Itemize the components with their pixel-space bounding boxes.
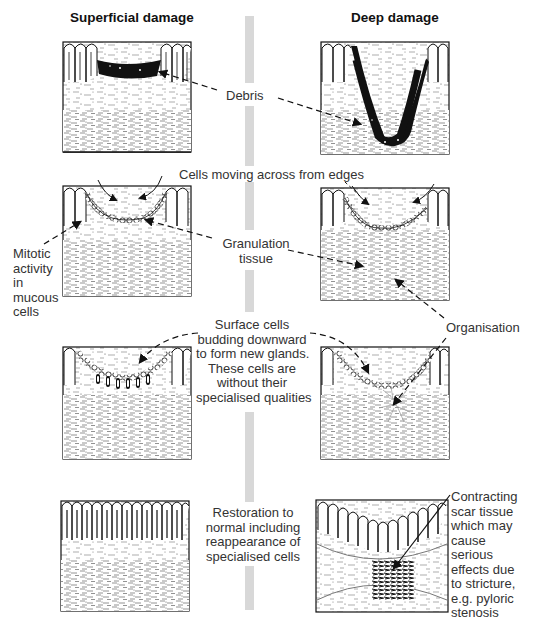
label-line: cause (451, 534, 517, 549)
label-line: in (13, 276, 59, 291)
label-organisation: Organisation (446, 321, 520, 336)
label-line: tissue (218, 252, 294, 267)
label-line: mucous (13, 291, 59, 306)
label-line: These cells are (196, 362, 308, 377)
panel-superficial-restored (61, 501, 189, 611)
panel-deep-migration (321, 184, 449, 300)
label-line: activity (13, 262, 59, 277)
label-line: to form new glands. (196, 347, 308, 362)
label-surface-cells: Surface cells budding downward to form n… (196, 318, 308, 405)
label-line: cells (13, 305, 59, 320)
label-granulation: Granulation tissue (218, 237, 294, 266)
label-line: Mitotic (13, 247, 59, 262)
label-line: Contracting (451, 490, 517, 505)
label-line: specialised qualities (196, 391, 308, 406)
scar-tissue (372, 560, 414, 600)
label-line: e.g. pyloric (451, 592, 517, 607)
label-debris: Debris (226, 89, 264, 104)
label-line: without their (196, 376, 308, 391)
panel-deep-debris (321, 42, 449, 154)
panel-superficial-debris (63, 42, 191, 152)
label-line: which may (451, 519, 517, 534)
panel-deep-scar (316, 500, 448, 612)
label-line: reappearance of (200, 535, 306, 550)
panel-superficial-glands (63, 347, 191, 459)
label-contracting-scar: Contracting scar tissue which may cause … (451, 490, 517, 621)
label-line: stenosis (451, 606, 517, 621)
panel-superficial-migration (63, 176, 191, 296)
label-cells-moving: Cells moving across from edges (179, 168, 364, 183)
label-mitotic-activity: Mitotic activity in mucous cells (13, 247, 59, 320)
panel-deep-organisation (321, 347, 449, 459)
label-line: budding downward (196, 333, 308, 348)
label-line: to stricture, (451, 577, 517, 592)
label-line: Surface cells (196, 318, 308, 333)
label-line: normal including (200, 521, 306, 536)
label-line: Restoration to (200, 506, 306, 521)
label-line: effects due (451, 563, 517, 578)
label-line: serious (451, 548, 517, 563)
label-line: specialised cells (200, 550, 306, 565)
label-line: Granulation (218, 237, 294, 252)
label-line: scar tissue (451, 505, 517, 520)
label-restoration: Restoration to normal including reappear… (200, 506, 306, 564)
